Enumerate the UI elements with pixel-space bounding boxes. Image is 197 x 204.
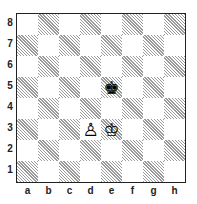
square-a7 xyxy=(17,35,38,56)
square-d2 xyxy=(80,140,101,161)
square-d4 xyxy=(80,98,101,119)
square-a6 xyxy=(17,56,38,77)
square-e3: ♔ xyxy=(101,119,122,140)
file-label-a: a xyxy=(17,185,38,196)
square-h7 xyxy=(164,35,185,56)
square-d8 xyxy=(80,14,101,35)
white-pawn-icon: ♙ xyxy=(80,119,101,140)
square-f8 xyxy=(122,14,143,35)
square-g6 xyxy=(143,56,164,77)
rank-label-3: 3 xyxy=(6,122,14,133)
square-c6 xyxy=(59,56,80,77)
square-f2 xyxy=(122,140,143,161)
square-f6 xyxy=(122,56,143,77)
square-f1 xyxy=(122,161,143,182)
rank-label-2: 2 xyxy=(6,143,14,154)
square-b6 xyxy=(38,56,59,77)
square-h5 xyxy=(164,77,185,98)
square-b8 xyxy=(38,14,59,35)
square-a4 xyxy=(17,98,38,119)
rank-label-7: 7 xyxy=(6,38,14,49)
rank-label-6: 6 xyxy=(6,59,14,70)
square-h3 xyxy=(164,119,185,140)
square-d1 xyxy=(80,161,101,182)
file-label-g: g xyxy=(143,185,164,196)
square-g4 xyxy=(143,98,164,119)
square-a2 xyxy=(17,140,38,161)
square-a5 xyxy=(17,77,38,98)
file-label-f: f xyxy=(122,185,143,196)
file-label-d: d xyxy=(80,185,101,196)
square-a3 xyxy=(17,119,38,140)
square-b5 xyxy=(38,77,59,98)
square-f3 xyxy=(122,119,143,140)
square-d3: ♙ xyxy=(80,119,101,140)
square-h2 xyxy=(164,140,185,161)
square-d5 xyxy=(80,77,101,98)
square-f7 xyxy=(122,35,143,56)
square-b7 xyxy=(38,35,59,56)
square-e1 xyxy=(101,161,122,182)
square-h8 xyxy=(164,14,185,35)
file-label-e: e xyxy=(101,185,122,196)
square-a8 xyxy=(17,14,38,35)
white-king-icon: ♔ xyxy=(101,119,122,140)
square-g5 xyxy=(143,77,164,98)
square-e7 xyxy=(101,35,122,56)
square-g2 xyxy=(143,140,164,161)
square-g8 xyxy=(143,14,164,35)
square-h1 xyxy=(164,161,185,182)
square-c7 xyxy=(59,35,80,56)
square-b1 xyxy=(38,161,59,182)
rank-label-1: 1 xyxy=(6,164,14,175)
square-e4 xyxy=(101,98,122,119)
rank-label-8: 8 xyxy=(6,17,14,28)
square-c4 xyxy=(59,98,80,119)
square-f4 xyxy=(122,98,143,119)
square-d6 xyxy=(80,56,101,77)
rank-label-4: 4 xyxy=(6,101,14,112)
square-b3 xyxy=(38,119,59,140)
square-g7 xyxy=(143,35,164,56)
square-g1 xyxy=(143,161,164,182)
file-label-b: b xyxy=(38,185,59,196)
square-b4 xyxy=(38,98,59,119)
square-h4 xyxy=(164,98,185,119)
square-h6 xyxy=(164,56,185,77)
square-e2 xyxy=(101,140,122,161)
file-label-c: c xyxy=(59,185,80,196)
square-c1 xyxy=(59,161,80,182)
square-g3 xyxy=(143,119,164,140)
square-c2 xyxy=(59,140,80,161)
file-label-h: h xyxy=(164,185,185,196)
chessboard: ♚♙♔ xyxy=(16,13,186,183)
square-e5: ♚ xyxy=(101,77,122,98)
square-c8 xyxy=(59,14,80,35)
square-c3 xyxy=(59,119,80,140)
square-f5 xyxy=(122,77,143,98)
square-d7 xyxy=(80,35,101,56)
square-c5 xyxy=(59,77,80,98)
square-b2 xyxy=(38,140,59,161)
black-king-icon: ♚ xyxy=(101,77,122,98)
square-a1 xyxy=(17,161,38,182)
square-e6 xyxy=(101,56,122,77)
rank-label-5: 5 xyxy=(6,80,14,91)
square-e8 xyxy=(101,14,122,35)
